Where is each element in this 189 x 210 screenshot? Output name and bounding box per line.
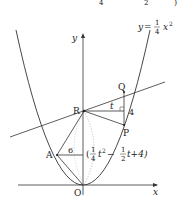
svg-text:=: = <box>144 22 152 32</box>
svg-text:(: ( <box>86 149 90 159</box>
coordinate-expression: ( 1 4 t 2 − 1 2 t+4) <box>86 146 148 163</box>
svg-text:2: 2 <box>169 20 173 27</box>
svg-text:x: x <box>163 22 168 32</box>
point-A <box>56 154 58 156</box>
svg-text:t+4): t+4) <box>127 149 148 159</box>
origin-label: O <box>74 188 81 198</box>
fragment-denominator-2: 2 <box>144 0 148 7</box>
point-R <box>83 110 86 113</box>
svg-text:y: y <box>137 22 144 32</box>
label-4: 4 <box>129 108 134 117</box>
right-angle-mark <box>120 107 124 111</box>
svg-text:−: − <box>107 149 115 159</box>
point-P <box>123 124 125 126</box>
label-t: t <box>110 101 114 111</box>
line-through-R-Q <box>10 82 165 137</box>
label-6: 6 <box>68 146 73 155</box>
fragment-denominator-4: 4 <box>99 0 104 7</box>
parabola-diagram: 4 2 ) y = 1 4 x 2 y x O R Q P A t 4 <box>0 0 189 210</box>
svg-text:4: 4 <box>155 28 160 36</box>
svg-text:2: 2 <box>102 147 106 154</box>
fragment-close-paren: ) <box>174 0 177 7</box>
cropped-formula-fragment: 4 2 ) <box>99 0 177 7</box>
segment-A-O <box>57 155 83 185</box>
svg-text:1: 1 <box>91 146 95 154</box>
y-axis-label: y <box>71 33 78 43</box>
dotted-arc-left <box>74 111 84 185</box>
y-axis-arrow-icon <box>81 33 85 38</box>
x-axis-label: x <box>153 187 158 197</box>
segment-R-P <box>84 111 124 125</box>
label-Q: Q <box>118 82 125 92</box>
label-A: A <box>45 150 53 160</box>
curve-equation-label: y = 1 4 x 2 <box>137 19 173 36</box>
svg-text:2: 2 <box>121 155 125 163</box>
svg-text:1: 1 <box>155 19 159 27</box>
label-P: P <box>123 128 129 138</box>
svg-text:4: 4 <box>91 155 96 163</box>
label-R: R <box>73 106 80 116</box>
svg-text:1: 1 <box>121 146 125 154</box>
